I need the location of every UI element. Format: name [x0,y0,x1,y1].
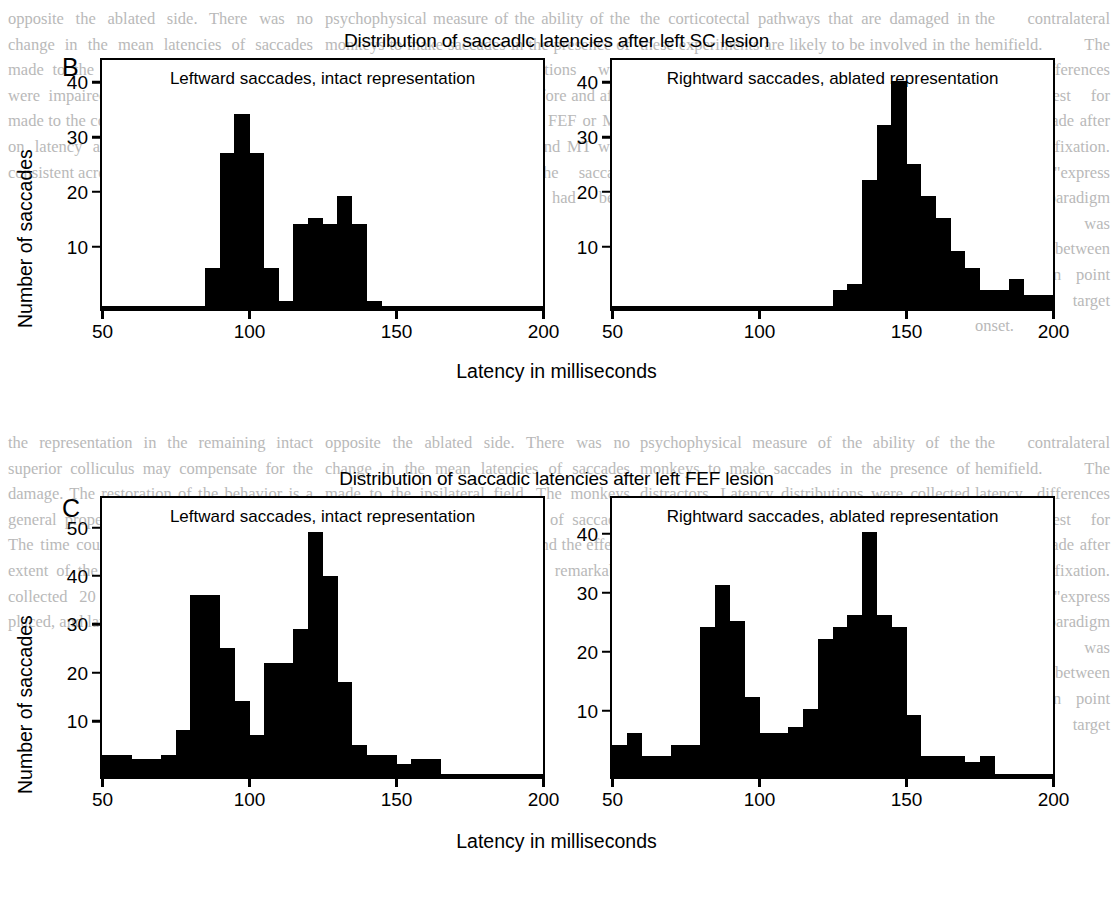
panel-b-title: Distribution of saccadlc latencies after… [0,28,1113,54]
histogram-bar [205,268,220,306]
y-tick-label: 10 [67,712,88,731]
x-tick-label: 50 [92,790,113,809]
chart-b-left-bars [102,60,543,306]
histogram-bar [234,701,249,774]
panel-b-y-axis-label: Number of saccades [14,88,37,328]
chart-c-left-bars [102,498,543,774]
chart-c-left-subtitle: Leftward saccades, intact representation [102,507,543,527]
histogram-bar [965,762,980,774]
histogram-bar [877,615,892,774]
y-tick-label: 10 [577,237,598,256]
histogram-bar [1009,279,1024,306]
histogram-bar [921,756,936,774]
x-tick-mark [611,308,614,319]
figure-container: Distribution of saccadlc latencies after… [0,0,1113,924]
x-tick-mark [905,776,908,787]
chart-c-right-y-ticks: 10203040 [566,496,606,772]
histogram-bar [220,648,235,774]
x-tick-label: 50 [602,790,623,809]
histogram-bar [877,125,892,306]
chart-b-right: 10203040 Rightward saccades, ablated rep… [610,58,1055,346]
panel-c-title: Distribution of saccadic latencies after… [0,466,1113,492]
y-tick-label: 40 [577,524,598,543]
histogram-bar [264,268,279,306]
chart-c-right-bars [612,498,1053,774]
y-tick-label: 50 [67,518,88,537]
x-tick-label: 150 [381,322,413,341]
histogram-bar [220,153,235,306]
histogram-bar [293,629,308,774]
histogram-bar [612,745,627,774]
histogram-bar [891,627,906,774]
panel-c-y-axis-label: Number of saccades [14,524,37,794]
histogram-bar [1038,295,1053,306]
histogram-bar [935,756,950,774]
histogram-bar [935,218,950,306]
chart-c-left-y-ticks: 1020304050 [56,496,96,772]
histogram-bar [352,745,367,774]
histogram-bar [411,759,426,774]
histogram-bar [730,621,745,774]
y-tick-label: 30 [67,615,88,634]
chart-b-right-x-axis [610,308,1055,320]
y-tick-label: 20 [577,642,598,661]
histogram-bar [744,697,759,774]
x-tick-mark [248,308,251,319]
x-tick-label: 150 [891,790,923,809]
histogram-bar [715,585,730,774]
x-tick-mark [395,776,398,787]
histogram-bar [862,180,877,306]
chart-b-right-x-tick-labels: 50100150200 [610,320,1055,346]
panel-b-x-axis-label: Latency in milliseconds [0,360,1113,383]
y-tick-label: 10 [577,701,598,720]
histogram-bar [323,224,338,306]
histogram-bar [1024,295,1039,306]
x-tick-label: 100 [744,322,776,341]
histogram-bar [847,615,862,774]
chart-b-right-frame: Rightward saccades, ablated representati… [610,58,1055,308]
x-tick-mark [101,308,104,319]
x-tick-label: 100 [234,322,266,341]
histogram-bar [323,576,338,774]
chart-b-left-x-tick-labels: 50100150200 [100,320,545,346]
chart-c-right-subtitle: Rightward saccades, ablated representati… [612,507,1053,527]
chart-c-left-x-axis [100,776,545,788]
panel-c: Distribution of saccadic latencies after… [0,466,1113,492]
histogram-bar [833,290,848,306]
chart-b-left-x-axis [100,308,545,320]
histogram-bar [102,755,117,774]
x-tick-mark [611,776,614,787]
chart-c-left: 1020304050 Leftward saccades, intact rep… [100,496,545,814]
histogram-bar [293,224,308,306]
histogram-bar [249,153,264,306]
panel-c-x-axis-label: Latency in milliseconds [0,830,1113,853]
histogram-bar [367,301,382,306]
histogram-bar [833,627,848,774]
chart-c-left-x-tick-labels: 50100150200 [100,788,545,814]
chart-c-right-frame: Rightward saccades, ablated representati… [610,496,1055,776]
histogram-bar [176,730,191,774]
x-tick-mark [395,308,398,319]
y-tick-label: 20 [67,663,88,682]
x-tick-label: 150 [891,322,923,341]
histogram-bar [847,284,862,306]
y-tick-label: 40 [67,566,88,585]
chart-c-left-frame: Leftward saccades, intact representation [100,496,545,776]
chart-b-right-bars [612,60,1053,306]
y-tick-label: 20 [67,182,88,201]
histogram-bar [117,755,132,774]
histogram-bar [205,595,220,774]
x-tick-label: 150 [381,790,413,809]
x-tick-label: 100 [744,790,776,809]
histogram-bar [980,290,995,306]
histogram-bar [700,627,715,774]
histogram-bar [862,532,877,774]
x-tick-mark [905,308,908,319]
y-tick-label: 10 [67,237,88,256]
histogram-bar [146,759,161,774]
x-tick-mark [101,776,104,787]
panel-b: Distribution of saccadlc latencies after… [0,28,1113,54]
histogram-bar [818,639,833,775]
x-tick-label: 200 [1038,322,1070,341]
x-tick-mark [542,308,545,319]
